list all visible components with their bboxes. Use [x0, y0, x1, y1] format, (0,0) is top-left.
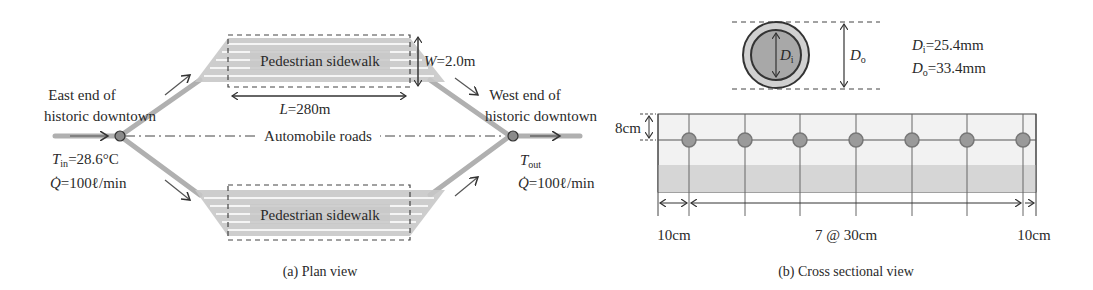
sidewalk-top-label: Pedestrian sidewalk	[260, 53, 380, 69]
inlet-node	[115, 131, 125, 141]
inner-diameter-value: Di=25.4mm	[911, 37, 984, 55]
outer-diameter-value: Do=33.4mm	[911, 60, 986, 78]
pipe-outer-diameter-symbol: Do	[849, 47, 866, 65]
cross-section-caption: (b) Cross sectional view	[778, 264, 915, 280]
west-end-label-line2: historic downtown	[485, 108, 598, 124]
west-end-label-line1: West end of	[489, 87, 560, 103]
plan-view: Pedestrian sidewalk Pedestrian sidewalk …	[44, 35, 598, 280]
outlet-flow-label: Q̇=100ℓ/min	[518, 175, 595, 191]
width-label: W=2.0m	[424, 53, 476, 69]
spacing-left-label: 10cm	[657, 227, 691, 243]
length-label: L=280m	[279, 101, 331, 117]
sidewalk-bottom-label: Pedestrian sidewalk	[260, 207, 380, 223]
sidewalk-bottom: Pedestrian sidewalk	[195, 185, 445, 240]
spacing-middle-label: 7 @ 30cm	[815, 227, 877, 243]
depth-label: 8cm	[615, 120, 641, 136]
pipe-detail: Di Do	[732, 22, 880, 89]
slab-band	[658, 165, 1036, 192]
plan-view-caption: (a) Plan view	[283, 264, 359, 280]
cross-section-view: Di Do Di=25.4mm Do=33.4mm	[615, 22, 1051, 280]
inlet-flow-label: Q̇=100ℓ/min	[50, 175, 127, 191]
inlet-temperature-label: Tin=28.6°C	[52, 151, 119, 169]
east-end-label-line1: East end of	[48, 87, 115, 103]
outlet-node	[508, 131, 518, 141]
spacing-right-label: 10cm	[1017, 227, 1051, 243]
roads-label: Automobile roads	[264, 128, 372, 144]
sidewalk-top: Pedestrian sidewalk	[195, 35, 445, 87]
figure-canvas: Pedestrian sidewalk Pedestrian sidewalk …	[0, 0, 1093, 290]
outlet-temperature-label: Tout	[520, 152, 541, 170]
east-end-label-line2: historic downtown	[44, 108, 157, 124]
